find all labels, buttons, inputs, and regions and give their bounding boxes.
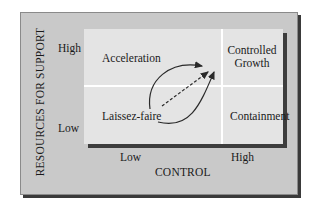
arrow-via-containment xyxy=(158,72,214,124)
transition-arrows xyxy=(0,0,316,207)
arrow-via-acceleration xyxy=(150,65,202,109)
